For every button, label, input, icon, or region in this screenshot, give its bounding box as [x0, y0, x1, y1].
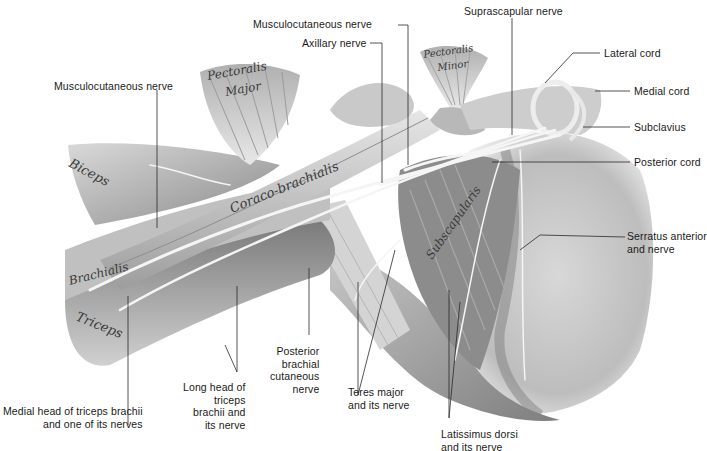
label-posterior-cord: Posterior cord [634, 156, 701, 169]
label-teres-line2: and its nerve [348, 399, 409, 412]
label-subclavius: Subclavius [634, 121, 686, 134]
label-long-head-line3: brachii and [183, 406, 246, 419]
label-serratus-line1: Serratus anterior [627, 230, 707, 243]
label-lat-line2: and its nerve [441, 441, 518, 451]
label-lateral-cord: Lateral cord [604, 47, 661, 60]
label-musculocutaneous-nerve-left: Musculocutaneous nerve [54, 80, 173, 93]
label-teres-line1: Teres major [348, 386, 409, 399]
label-musculocutaneous-nerve-top: Musculocutaneous nerve [253, 18, 372, 31]
label-medial-head-triceps: Medial head of triceps brachii and one o… [3, 405, 143, 430]
label-latissimus-dorsi: Latissimus dorsi and its nerve [441, 428, 518, 451]
label-long-head-triceps: Long head of triceps brachii and its ner… [183, 381, 246, 431]
label-serratus-anterior: Serratus anterior and nerve [627, 230, 707, 255]
label-pbc-line2: brachial [270, 358, 319, 371]
label-serratus-line2: and nerve [627, 243, 707, 256]
label-posterior-brachial-cutaneous: Posterior brachial cutaneous nerve [270, 345, 319, 395]
label-pbc-line4: nerve [270, 383, 319, 396]
label-lat-line1: Latissimus dorsi [441, 428, 518, 441]
label-medial-cord: Medial cord [634, 85, 689, 98]
label-suprascapular-nerve: Suprascapular nerve [464, 5, 563, 18]
label-long-head-line4: its nerve [183, 419, 246, 432]
label-teres-major: Teres major and its nerve [348, 386, 409, 411]
label-pbc-line1: Posterior [270, 345, 319, 358]
label-long-head-line1: Long head of [183, 381, 246, 394]
label-medial-head-line2: and one of its nerves [3, 418, 143, 431]
deltoid-muscle [330, 83, 414, 127]
label-long-head-line2: triceps [183, 394, 246, 407]
label-axillary-nerve: Axillary nerve [302, 37, 366, 50]
leader-lateral-cord [545, 53, 600, 83]
label-medial-head-line1: Medial head of triceps brachii [3, 405, 143, 418]
label-pbc-line3: cutaneous [270, 370, 319, 383]
